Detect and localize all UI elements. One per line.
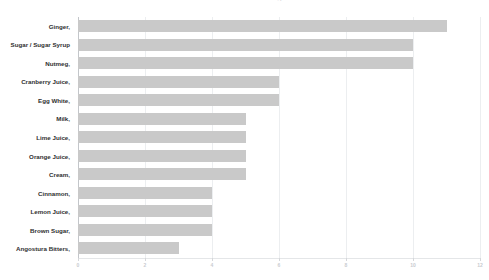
y-axis-label: Brown Sugar,: [0, 221, 74, 240]
bar[interactable]: [78, 205, 212, 217]
bar-row: [78, 239, 480, 258]
bar[interactable]: [78, 224, 212, 236]
bar-row: [78, 110, 480, 129]
bar-row: [78, 221, 480, 240]
y-axis-label: Nutmeg,: [0, 54, 74, 73]
bar[interactable]: [78, 187, 212, 199]
x-tick-label: 4: [202, 262, 222, 268]
y-axis-label: Ginger,: [0, 17, 74, 36]
bar-row: [78, 147, 480, 166]
bar[interactable]: [78, 131, 246, 143]
bar-row: [78, 73, 480, 92]
bar[interactable]: [78, 94, 279, 106]
gridline-x-12: [480, 17, 481, 258]
bar-row: [78, 128, 480, 147]
y-axis-label: Orange Juice,: [0, 147, 74, 166]
x-tick-label: 6: [269, 262, 289, 268]
x-tick-mark-0: [78, 258, 79, 261]
y-axis-label: Sugar / Sugar Syrup: [0, 36, 74, 55]
bar-row: [78, 36, 480, 55]
bar-row: [78, 91, 480, 110]
bar[interactable]: [78, 150, 246, 162]
bar[interactable]: [78, 113, 246, 125]
x-tick-label: 2: [135, 262, 155, 268]
x-tick-label: 10: [403, 262, 423, 268]
y-axis-label: Cranberry Juice,: [0, 73, 74, 92]
y-axis-label: Angostura Bitters,: [0, 239, 74, 258]
bar-row: [78, 184, 480, 203]
bar-chart: Most Common Cocktail Ingredients Ginger,…: [0, 0, 489, 280]
y-axis-label: Milk,: [0, 110, 74, 129]
x-tick-label: 0: [68, 262, 88, 268]
x-tick-label: 8: [336, 262, 356, 268]
x-tick-mark-6: [279, 258, 280, 261]
y-axis-label: Cream,: [0, 165, 74, 184]
x-tick-mark-2: [145, 258, 146, 261]
y-axis-label: Lemon Juice,: [0, 202, 74, 221]
x-tick-mark-4: [212, 258, 213, 261]
bar-row: [78, 165, 480, 184]
bar[interactable]: [78, 168, 246, 180]
chart-title: Most Common Cocktail Ingredients: [0, 0, 489, 1]
bar[interactable]: [78, 39, 413, 51]
bar[interactable]: [78, 76, 279, 88]
y-axis-label: Lime Juice,: [0, 128, 74, 147]
bar-row: [78, 54, 480, 73]
bar-row: [78, 202, 480, 221]
x-tick-mark-10: [413, 258, 414, 261]
y-axis-label: Cinnamon,: [0, 184, 74, 203]
y-axis-label: Egg White,: [0, 91, 74, 110]
x-tick-mark-8: [346, 258, 347, 261]
bar-row: [78, 17, 480, 36]
bar[interactable]: [78, 242, 179, 254]
plot-area: [78, 17, 480, 258]
y-axis-category-labels: Ginger,Sugar / Sugar SyrupNutmeg,Cranber…: [0, 17, 74, 258]
bar[interactable]: [78, 57, 413, 69]
x-tick-mark-12: [480, 258, 481, 261]
x-tick-label: 12: [470, 262, 489, 268]
bar[interactable]: [78, 20, 447, 32]
